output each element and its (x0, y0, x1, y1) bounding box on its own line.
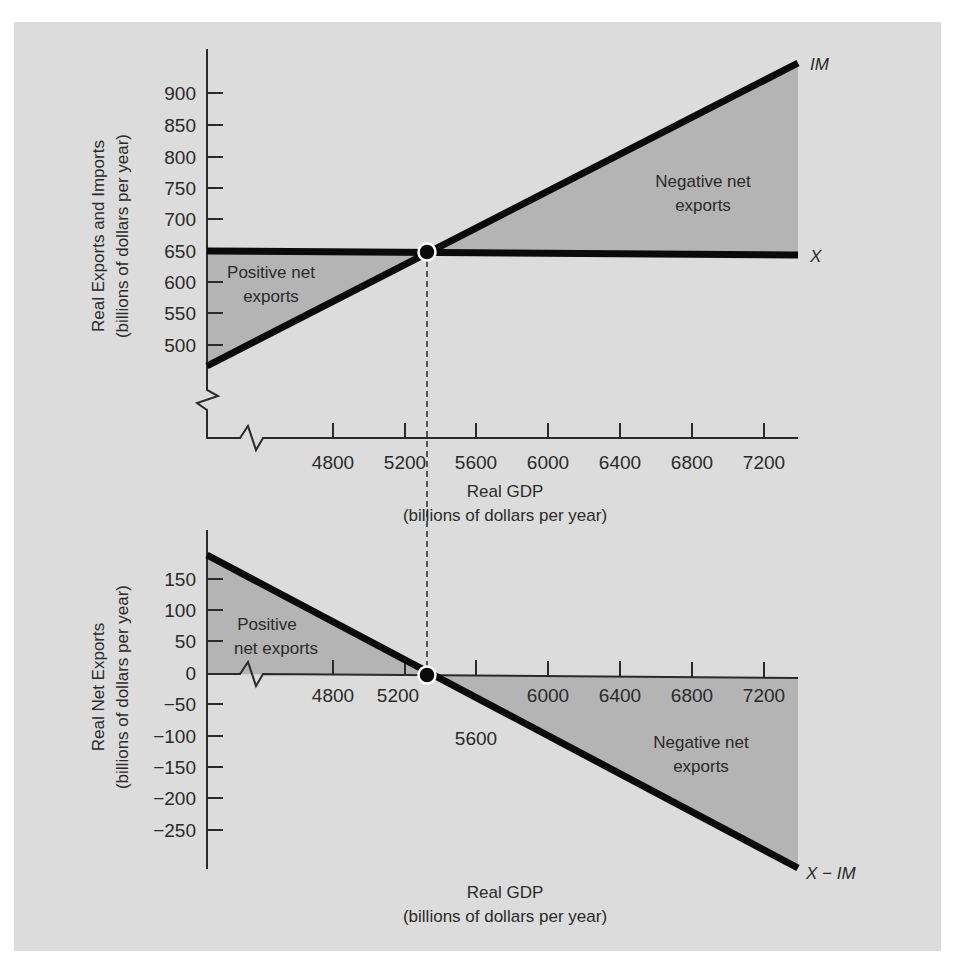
positive-region-label: Positive (237, 615, 297, 634)
y-tick-label: 850 (164, 115, 196, 136)
positive-region-label: Positive net (227, 263, 315, 282)
negative-region-label: Negative net (655, 172, 751, 191)
bottom-x-axis-subtitle: (billions of dollars per year) (403, 907, 607, 926)
top-x-axis-title: Real GDP (467, 482, 544, 501)
y-tick-label: −200 (153, 788, 196, 809)
x-tick-label: 6800 (671, 685, 713, 706)
y-tick-label: 600 (164, 272, 196, 293)
positive-region-label: net exports (234, 639, 318, 658)
y-tick-label: −100 (153, 726, 196, 747)
positive-region-label: exports (243, 287, 299, 306)
y-tick-label: 0 (185, 663, 196, 684)
x-tick-label: 7200 (743, 685, 785, 706)
y-tick-label: 550 (164, 303, 196, 324)
x-minus-im-series-label: X − IM (805, 864, 856, 883)
top-x-axis-subtitle: (billions of dollars per year) (403, 506, 607, 525)
im-series-label: IM (810, 55, 830, 74)
y-tick-label: −50 (164, 694, 196, 715)
bottom-y-axis-title: Real Net Exports (billions of dollars pe… (89, 585, 132, 789)
y-tick-label: 650 (164, 241, 196, 262)
x-tick-label: 5200 (377, 685, 419, 706)
y-tick-label: 500 (164, 335, 196, 356)
x-tick-label: 6000 (527, 452, 569, 473)
x-tick-label: 4800 (312, 452, 354, 473)
y-tick-label: 900 (164, 83, 196, 104)
y-tick-label: 150 (164, 569, 196, 590)
negative-region-label: exports (673, 757, 729, 776)
x-tick-label: 6400 (599, 685, 641, 706)
top-chart: 900 850 800 750 700 650 600 550 500 4800… (89, 49, 830, 525)
svg-text:Real Net Exports: Real Net Exports (89, 623, 108, 752)
negative-region-label: exports (675, 196, 731, 215)
x-tick-label: 6800 (671, 452, 713, 473)
y-tick-label: 100 (164, 600, 196, 621)
x-tick-label: 6400 (599, 452, 641, 473)
bottom-chart: 150 100 50 0 −50 −100 −150 −200 −250 480… (89, 530, 856, 926)
x-tick-label: 5600 (455, 452, 497, 473)
x-series-label: X (809, 247, 822, 266)
figure: 900 850 800 750 700 650 600 550 500 4800… (0, 0, 958, 963)
y-tick-label: 750 (164, 178, 196, 199)
bottom-x-axis-title: Real GDP (467, 883, 544, 902)
svg-text:(billions of dollars per year): (billions of dollars per year) (113, 134, 132, 338)
x-tick-label: 6000 (527, 685, 569, 706)
top-y-axis-title: Real Exports and Imports (billions of do… (89, 134, 132, 338)
x-ticks (333, 423, 764, 438)
x-tick-label: 5600 (455, 728, 497, 749)
exports-line-x (207, 251, 798, 255)
x-tick-label: 7200 (743, 452, 785, 473)
top-equilibrium-point (419, 244, 436, 261)
y-tick-label: −150 (153, 757, 196, 778)
y-tick-label: 50 (175, 631, 196, 652)
x-tick-label: 5200 (384, 452, 426, 473)
y-tick-labels: 150 100 50 0 −50 −100 −150 −200 −250 (153, 569, 196, 841)
negative-region-label: Negative net (653, 733, 749, 752)
y-tick-label: 700 (164, 209, 196, 230)
y-tick-label: 800 (164, 147, 196, 168)
svg-text:(billions of dollars per year): (billions of dollars per year) (113, 585, 132, 789)
svg-text:Real Exports and Imports: Real Exports and Imports (89, 140, 108, 332)
x-tick-label: 4800 (312, 685, 354, 706)
x-tick-labels: 4800 5200 5600 6000 6400 6800 7200 (312, 452, 785, 473)
bottom-equilibrium-point (419, 667, 436, 684)
y-tick-labels: 900 850 800 750 700 650 600 550 500 (164, 83, 196, 356)
y-tick-label: −250 (153, 820, 196, 841)
